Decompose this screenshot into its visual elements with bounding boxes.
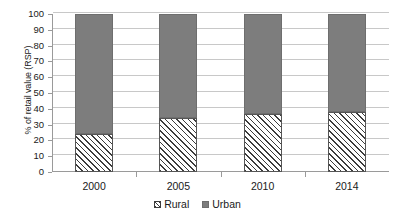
x-axis-tick-label: 2000	[52, 180, 136, 192]
bar-group[interactable]	[244, 14, 282, 172]
x-axis-tick-label: 2005	[136, 180, 220, 192]
y-axis-tick-label: 40	[4, 104, 44, 114]
stacked-bar-chart: % of retail value (RSP) 0102030405060708…	[0, 0, 395, 221]
x-axis-tick-mark	[305, 172, 306, 177]
y-axis-tick-label: 30	[4, 120, 44, 130]
gridline	[53, 12, 389, 13]
y-axis-tick-label: 10	[4, 151, 44, 161]
bar-segment-urban[interactable]	[75, 14, 113, 134]
bar-segment-urban[interactable]	[328, 14, 366, 112]
legend-item-urban[interactable]: Urban	[202, 199, 241, 210]
x-axis-labels: 2000200520102014	[52, 180, 389, 194]
bar-segment-urban[interactable]	[244, 14, 282, 114]
bar-group[interactable]	[159, 14, 197, 172]
chart-legend: RuralUrban	[0, 199, 395, 210]
y-axis-tick-label: 100	[4, 9, 44, 19]
bar-segment-rural[interactable]	[75, 134, 113, 172]
bar-group[interactable]	[328, 14, 366, 172]
y-axis-tick-label: 70	[4, 56, 44, 66]
y-axis-tick-label: 20	[4, 135, 44, 145]
x-axis-tick-mark	[221, 172, 222, 177]
bar-segment-rural[interactable]	[159, 118, 197, 172]
bar-series-container	[52, 14, 389, 172]
y-axis-tick-label: 50	[4, 88, 44, 98]
y-axis-tick-label: 80	[4, 41, 44, 51]
x-axis-tick-label: 2014	[305, 180, 389, 192]
y-axis-ticks: 0102030405060708090100	[0, 0, 52, 221]
x-axis-tick-label: 2010	[221, 180, 305, 192]
bar-group[interactable]	[75, 14, 113, 172]
y-axis-tick-label: 60	[4, 72, 44, 82]
x-axis-tick-mark	[136, 172, 137, 177]
gray-square-swatch	[202, 201, 209, 208]
bar-segment-urban[interactable]	[159, 14, 197, 118]
x-axis-ticks	[52, 172, 389, 178]
hatched-square-swatch	[154, 201, 161, 208]
legend-item-label: Urban	[212, 199, 241, 210]
bar-segment-rural[interactable]	[244, 114, 282, 172]
bar-segment-rural[interactable]	[328, 112, 366, 172]
y-axis-tick-label: 90	[4, 25, 44, 35]
y-axis-tick-label: 0	[4, 167, 44, 177]
legend-item-label: Rural	[164, 199, 189, 210]
legend-item-rural[interactable]: Rural	[154, 199, 189, 210]
